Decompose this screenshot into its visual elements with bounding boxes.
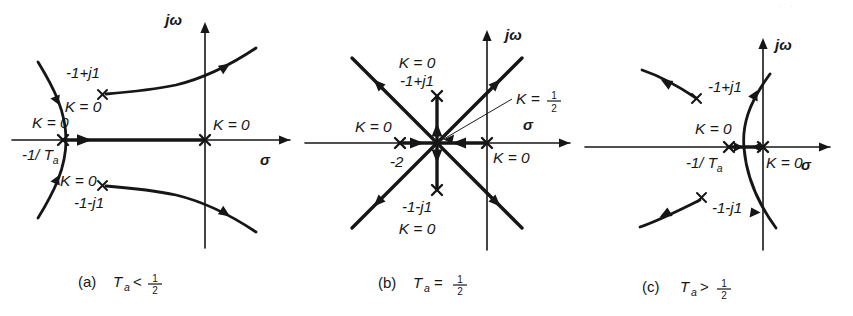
panel-b-real-locus-arrow-right (452, 137, 466, 148)
panel-a-real-locus-arrow (77, 134, 92, 146)
panel-b-caption-sub: a (424, 282, 430, 294)
panel-a: jω σ K = 0 -1/ Ta K = 0 -1+j1 K = 0 K = … (12, 11, 290, 296)
panel-c-klabel-left: K = 0 (695, 120, 732, 137)
root-locus-figure: jω σ K = 0 -1/ Ta K = 0 -1+j1 K = 0 K = … (0, 0, 853, 316)
panel-a-label-minus1-minus-j1: -1-j1 (74, 194, 104, 211)
panel-c-pole-minus1-minus-j1 (697, 193, 706, 202)
panel-b-caption: (b) T a = 1 2 (378, 274, 467, 297)
panel-c-sigma-label: σ (801, 156, 812, 173)
panel-b: jω σ K = 0 -1+j1 -1-j1 K = 0 K = 0 -2 K … (305, 26, 570, 297)
panel-a-klabel-origin: K = 0 (213, 116, 250, 133)
panel-c-lower-branch-arrow (659, 207, 672, 217)
panel-a-sigma-label: σ (260, 151, 271, 168)
panel-a-label-minus1overTa: -1/ Ta (22, 146, 59, 166)
panel-b-khalf-numerator: 1 (551, 90, 557, 101)
panel-a-caption-sub: a (124, 281, 130, 293)
panel-c-label-minus1-minus-j1: -1-j1 (712, 199, 742, 216)
panel-c-real-locus-arrow-left (734, 142, 743, 152)
panel-b-klabel-lower: K = 0 (399, 220, 436, 237)
panel-c-label-minus1-plus-j1: -1+j1 (708, 78, 742, 95)
panel-a-lower-branch (106, 186, 256, 232)
panel-a-caption-var: T (113, 273, 124, 290)
panel-c-label-minus1overTa: -1/ Ta (686, 154, 723, 174)
panel-b-real-locus-arrow-left (410, 137, 424, 148)
panel-b-sigma-label: σ (523, 116, 534, 133)
panel-a-jomega-label: jω (163, 11, 182, 28)
panel-a-label-minus1-plus-j1: -1+j1 (66, 64, 100, 81)
panel-b-vertical-arrow-upper (432, 123, 443, 137)
panel-a-caption-rel: < (133, 273, 142, 290)
panel-a-klabel-left: K = 0 (32, 114, 69, 131)
scan-artifact: · · (778, 1, 796, 11)
panel-b-label-minus1-plus-j1: -1+j1 (400, 72, 434, 89)
panel-a-caption-index: (a) (78, 273, 96, 290)
panel-a-sigma-arrowhead (279, 135, 290, 144)
panel-c-jomega-arrowhead (758, 38, 767, 49)
panel-b-khalf-label: K = 1 2 (516, 90, 561, 114)
panel-c-caption-sub: a (691, 286, 697, 298)
panel-c-caption-rel: > (700, 278, 709, 295)
panel-c-caption-index: (c) (642, 278, 660, 295)
panel-a-klabel-upper: K = 0 (65, 98, 102, 115)
panel-b-klabel-upper: K = 0 (399, 54, 436, 71)
panel-c-caption-var: T (680, 278, 691, 295)
panel-c-pole-minus1-plus-j1 (692, 94, 701, 103)
panel-c-sigma-arrowhead (819, 142, 830, 151)
panel-b-jomega-arrowhead (482, 30, 491, 41)
panel-b-khalf-text: K = (516, 90, 540, 107)
panel-b-label-minus2: -2 (390, 153, 404, 170)
panel-c-caption-numerator: 1 (721, 278, 727, 289)
panel-b-klabel-origin: K = 0 (493, 149, 530, 166)
panel-b-caption-var: T (413, 274, 424, 291)
panel-b-caption-rel: = (434, 274, 443, 291)
panel-b-sigma-arrowhead (559, 138, 570, 147)
panel-b-caption-denominator: 2 (457, 286, 463, 297)
panel-b-caption-index: (b) (378, 274, 396, 291)
panel-b-vertical-arrow-lower (432, 149, 443, 163)
panel-c: jω σ -1+j1 -1-j1 K = 0 -1/ Ta K = 0 (c) … (585, 36, 830, 301)
panel-c-arc-arrow-lower (750, 208, 761, 218)
panel-b-klabel-left: K = 0 (355, 118, 392, 135)
panel-b-khalf-denominator: 2 (551, 103, 557, 114)
panel-c-klabel-origin: K = 0 (766, 154, 803, 171)
panel-c-caption-denominator: 2 (721, 290, 727, 301)
panel-a-jomega-arrowhead (200, 22, 209, 33)
panel-c-upper-branch-arrow (661, 79, 674, 90)
panel-c-jomega-label: jω (773, 36, 792, 53)
panel-a-caption: (a) T a < 1 2 (78, 273, 162, 296)
figure-canvas: jω σ K = 0 -1/ Ta K = 0 -1+j1 K = 0 K = … (0, 0, 853, 316)
panel-c-caption: (c) T a > 1 2 (642, 278, 731, 301)
panel-a-caption-numerator: 1 (152, 273, 158, 284)
panel-a-upper-branch (106, 48, 256, 94)
panel-a-caption-denominator: 2 (152, 285, 158, 296)
panel-a-klabel-lower: K = 0 (60, 172, 97, 189)
panel-b-jomega-label: jω (503, 26, 522, 43)
panel-b-caption-numerator: 1 (457, 274, 463, 285)
panel-b-label-minus1-minus-j1: -1-j1 (402, 198, 432, 215)
